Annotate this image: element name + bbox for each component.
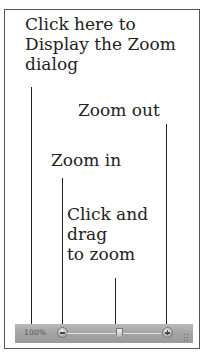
zoom-level-button[interactable]: 100% <box>24 328 46 337</box>
zoom-slider-track[interactable] <box>67 333 161 334</box>
leader-line-slider <box>115 278 116 330</box>
callout-zoom-dialog: Click here to Display the Zoom dialog <box>25 14 176 74</box>
zoom-in-button[interactable] <box>162 327 173 338</box>
zoom-slider-thumb[interactable] <box>116 328 123 338</box>
leader-line-zoom-out <box>166 124 167 331</box>
callout-zoom-in: Zoom in <box>51 150 121 170</box>
callout-zoom-out: Zoom out <box>78 100 160 120</box>
resize-grip-icon[interactable] <box>183 333 190 341</box>
callout-slider: Click and drag to zoom <box>67 204 148 264</box>
leader-line-zoom-in <box>62 178 63 331</box>
zoom-status-bar: 100% <box>15 324 193 343</box>
leader-line-zoom-dialog <box>31 87 32 327</box>
